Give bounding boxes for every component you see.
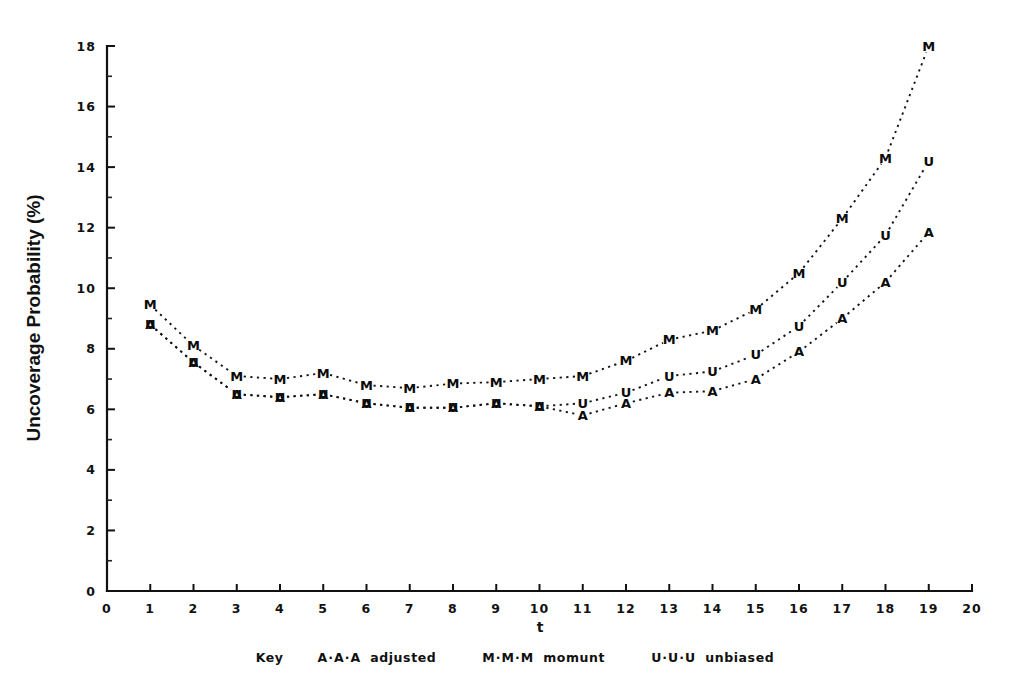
series-segment xyxy=(804,287,837,321)
series-segment xyxy=(848,287,881,314)
data-point-marker: M xyxy=(274,372,287,387)
x-tick-label: 0 xyxy=(102,601,112,616)
series-segment xyxy=(889,167,925,229)
data-point-marker: A xyxy=(664,385,674,400)
series-segment xyxy=(589,363,619,374)
data-point-marker: A xyxy=(794,344,804,359)
data-point-marker: M xyxy=(922,39,935,54)
series-segment xyxy=(761,278,794,305)
data-point-marker: M xyxy=(187,338,200,353)
series-moment: MMMMMMMMMMMMMMMMMMM xyxy=(144,39,935,396)
data-point-marker: M xyxy=(317,366,330,381)
series-segment xyxy=(846,164,881,213)
series-segment xyxy=(847,240,881,277)
data-point-marker: M xyxy=(793,266,806,281)
series-segment xyxy=(417,384,446,387)
series-segment xyxy=(199,350,231,372)
x-tick-label: 15 xyxy=(746,601,766,616)
data-point-marker: A xyxy=(145,317,155,332)
series-segment xyxy=(676,372,705,375)
series-segment xyxy=(460,404,489,407)
data-point-marker: M xyxy=(749,302,762,317)
data-point-marker: M xyxy=(144,297,157,312)
y-tick-label: 16 xyxy=(76,99,96,114)
legend-entry-unbiased: U·U·Uunbiased xyxy=(651,650,774,665)
series-segment xyxy=(803,224,838,268)
x-tick-label: 11 xyxy=(573,601,593,616)
legend-label: unbiased xyxy=(705,650,774,665)
data-point-marker: A xyxy=(578,408,588,423)
x-tick-label: 2 xyxy=(189,601,199,616)
y-tick-label: 0 xyxy=(86,584,96,599)
x-tick-label: 3 xyxy=(232,601,242,616)
axes: 0123456789101112131415161718192002468101… xyxy=(76,39,981,617)
data-point-marker: A xyxy=(405,400,415,415)
data-point-marker: U xyxy=(664,369,675,384)
series-adjusted: AAAAAAAAAAAAAAAAAAA xyxy=(145,225,934,423)
y-tick-label: 6 xyxy=(86,402,96,417)
data-point-marker: U xyxy=(880,228,891,243)
legend-symbol: M·M·M xyxy=(482,650,534,665)
data-point-marker: M xyxy=(230,369,243,384)
series-segment xyxy=(244,377,273,379)
x-tick-label: 20 xyxy=(962,601,982,616)
series-segment xyxy=(719,381,749,389)
series-segment xyxy=(460,382,489,383)
uncoverage-probability-chart: 0123456789101112131415161718192002468101… xyxy=(0,0,1030,695)
x-tick-label: 16 xyxy=(789,601,809,616)
series-segment xyxy=(373,404,402,407)
series-segment xyxy=(199,367,231,390)
y-tick-label: 12 xyxy=(76,220,96,235)
y-tick-label: 2 xyxy=(86,523,96,538)
series-segment xyxy=(287,374,316,378)
x-tick-label: 6 xyxy=(362,601,372,616)
legend-label: momunt xyxy=(543,650,605,665)
series-segment xyxy=(589,405,619,413)
data-point-marker: M xyxy=(403,381,416,396)
series-segment xyxy=(330,396,360,402)
series-segment xyxy=(890,238,924,277)
data-point-marker: A xyxy=(318,387,328,402)
data-point-marker: U xyxy=(923,154,934,169)
data-point-marker: M xyxy=(836,211,849,226)
series-segment xyxy=(330,375,360,383)
x-tick-label: 7 xyxy=(405,601,415,616)
series-segment xyxy=(590,394,620,401)
data-point-marker: A xyxy=(880,275,890,290)
data-point-marker: A xyxy=(232,387,242,402)
x-tick-label: 9 xyxy=(491,601,501,616)
series-segment xyxy=(633,394,663,401)
series-segment xyxy=(719,312,750,327)
series-segment xyxy=(546,408,576,414)
series-segment xyxy=(156,329,189,358)
data-point-marker: M xyxy=(879,151,892,166)
data-point-marker: A xyxy=(924,225,934,240)
x-tick-label: 8 xyxy=(448,601,458,616)
series-segment xyxy=(888,53,926,152)
y-tick-label: 14 xyxy=(76,160,96,175)
y-tick-label: 4 xyxy=(86,462,96,477)
data-point-marker: M xyxy=(576,369,589,384)
data-point-marker: U xyxy=(750,347,761,362)
x-tick-label: 12 xyxy=(616,601,636,616)
data-point-marker: M xyxy=(620,353,633,368)
series-segment xyxy=(633,379,663,391)
legend-entry-momunt: M·M·Mmomunt xyxy=(482,650,605,665)
legend-symbol: U·U·U xyxy=(651,650,696,665)
series-segment xyxy=(676,332,706,338)
data-point-marker: A xyxy=(707,384,717,399)
x-tick-label: 13 xyxy=(659,601,679,616)
x-tick-label: 10 xyxy=(530,601,550,616)
data-point-marker: M xyxy=(447,376,460,391)
series-segment xyxy=(503,380,532,382)
x-tick-label: 17 xyxy=(832,601,852,616)
data-point-marker: U xyxy=(707,364,718,379)
series-segment xyxy=(546,404,575,406)
x-tick-label: 14 xyxy=(703,601,723,616)
series-segment xyxy=(632,343,663,358)
x-tick-label: 1 xyxy=(145,601,155,616)
data-point-marker: A xyxy=(448,400,458,415)
data-series: MMMMMMMMMMMMMMMMMMMUUUUUUUUUUUUUUUUUUUAA… xyxy=(144,39,935,423)
series-segment xyxy=(762,330,794,351)
data-point-marker: A xyxy=(491,396,501,411)
